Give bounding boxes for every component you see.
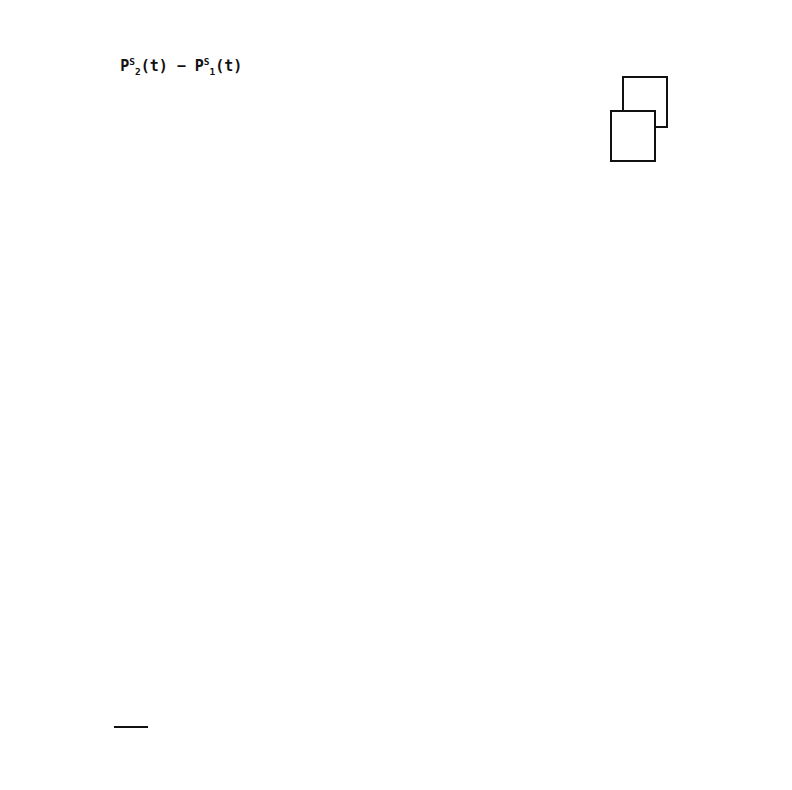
annotation-basis-range	[478, 450, 511, 497]
origin-label	[122, 672, 156, 720]
time-axis-label	[718, 674, 752, 722]
annotation-discount	[478, 556, 511, 603]
footnote-tag	[114, 726, 148, 787]
chart-canvas	[0, 0, 792, 790]
annotation-crisis-period	[478, 164, 511, 211]
legend-thirty-day-forward-box[interactable]	[610, 110, 656, 162]
x-axis-label	[228, 700, 262, 748]
footnote-line-2	[196, 746, 230, 790]
annotation-premium	[138, 246, 171, 293]
